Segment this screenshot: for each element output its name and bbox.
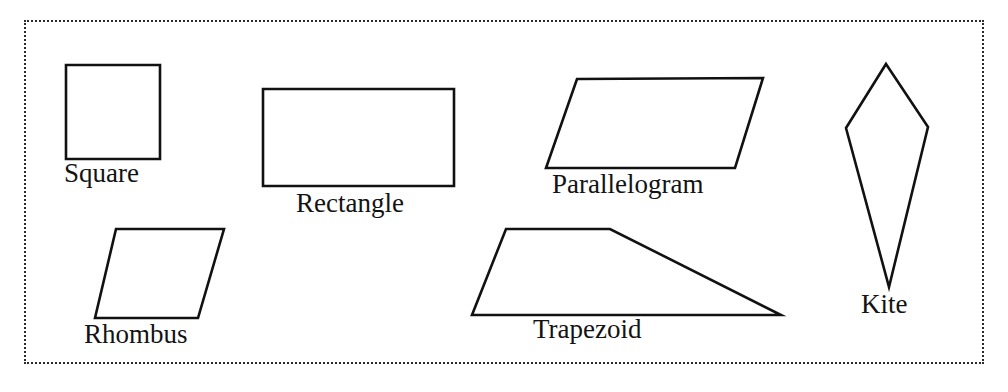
kite-shape — [846, 64, 928, 287]
parallelogram-label: Parallelogram — [552, 171, 703, 198]
rhombus-label: Rhombus — [84, 321, 188, 348]
kite-label: Kite — [861, 291, 908, 318]
square-shape — [66, 65, 160, 159]
parallelogram-shape — [546, 78, 763, 168]
figure-canvas: Square Rectangle Parallelogram Kite Rhom… — [0, 0, 1008, 392]
rhombus-shape — [95, 229, 224, 318]
trapezoid-shape — [472, 229, 781, 315]
rectangle-shape — [263, 89, 454, 186]
trapezoid-label: Trapezoid — [533, 316, 642, 343]
rectangle-label: Rectangle — [296, 190, 404, 217]
square-label: Square — [64, 160, 139, 187]
